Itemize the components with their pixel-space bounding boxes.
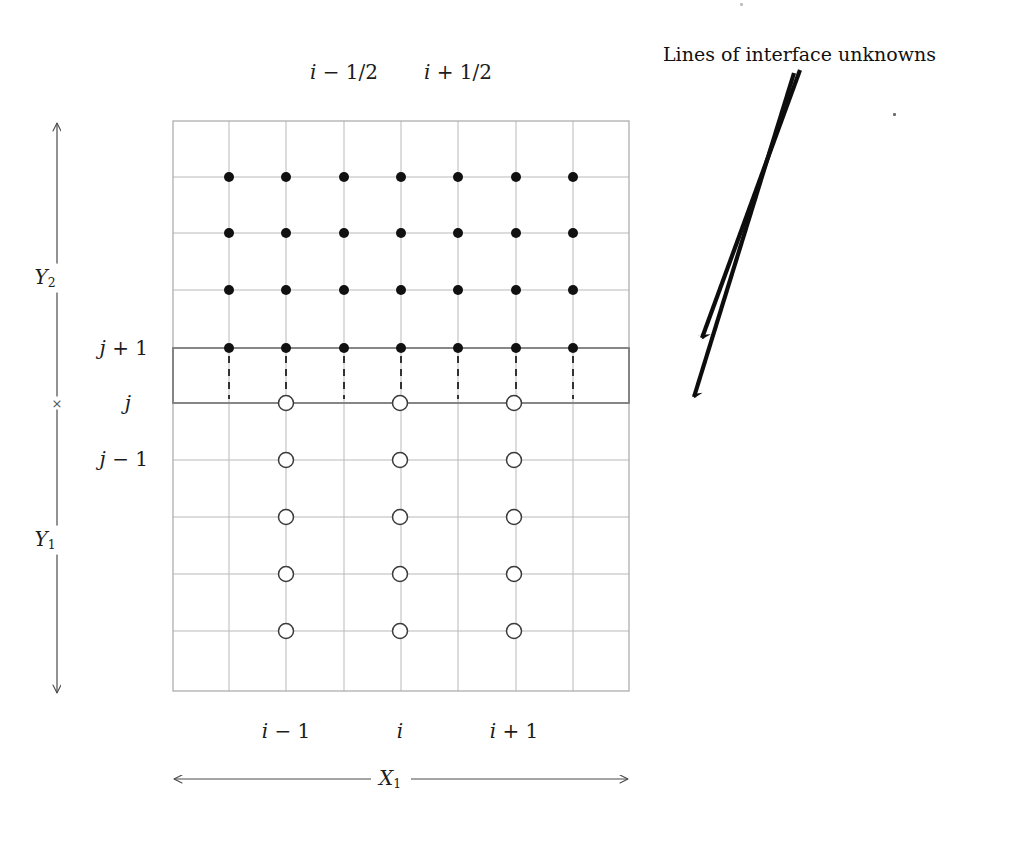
hollow-node xyxy=(507,453,522,468)
hollow-node xyxy=(279,567,294,582)
label-i-plus-half: i + 1/2 xyxy=(424,62,492,82)
label-i-minus-1: i − 1 xyxy=(262,721,311,741)
filled-node xyxy=(339,343,349,353)
filled-node xyxy=(224,343,234,353)
label-op: − xyxy=(268,719,297,743)
filled-node xyxy=(224,172,234,182)
hollow-node xyxy=(393,624,408,639)
filled-node xyxy=(396,172,406,182)
hollow-node xyxy=(279,453,294,468)
filled-node xyxy=(568,343,578,353)
filled-node xyxy=(511,343,521,353)
filled-node xyxy=(511,172,521,182)
hollow-node xyxy=(393,567,408,582)
filled-node xyxy=(511,285,521,295)
filled-node xyxy=(281,343,291,353)
label-subscript: 2 xyxy=(48,275,56,290)
filled-node xyxy=(453,285,463,295)
label-op: + xyxy=(106,336,135,360)
label-value: 1 xyxy=(526,719,539,743)
hollow-node xyxy=(393,453,408,468)
label-text: X xyxy=(379,766,393,790)
label-value: 1 xyxy=(298,719,311,743)
hollow-node xyxy=(393,510,408,525)
annotation-arrow-lower xyxy=(694,73,794,397)
label-j-minus-1: j − 1 xyxy=(100,449,148,469)
label-subscript: 1 xyxy=(48,537,56,552)
filled-node xyxy=(453,228,463,238)
filled-node xyxy=(339,285,349,295)
hollow-node xyxy=(507,567,522,582)
hollow-node xyxy=(507,624,522,639)
label-value: 1 xyxy=(135,336,148,360)
figure-canvas: Lines of interface unknowns i − 1/2 i + … xyxy=(0,0,1009,844)
label-text: Y xyxy=(34,527,47,551)
label-y1: Y1 xyxy=(29,526,60,555)
label-op: − xyxy=(106,447,135,471)
y-axis-tick-marker: × xyxy=(50,397,65,410)
filled-node xyxy=(453,172,463,182)
label-value: 1 xyxy=(135,447,148,471)
label-i: i xyxy=(397,721,403,741)
label-value: 1/2 xyxy=(460,60,492,84)
label-text: i xyxy=(397,719,403,743)
label-value: 1/2 xyxy=(346,60,378,84)
label-j: j xyxy=(125,393,131,413)
label-i-minus-half: i − 1/2 xyxy=(310,62,378,82)
label-x1: X1 xyxy=(372,766,408,793)
annotation-label: Lines of interface unknowns xyxy=(663,45,936,64)
annotation-arrow-group xyxy=(694,70,800,397)
label-op: − xyxy=(316,60,345,84)
filled-node xyxy=(339,228,349,238)
filled-node xyxy=(281,285,291,295)
hollow-node xyxy=(507,510,522,525)
hollow-node xyxy=(279,396,294,411)
label-y2: Y2 xyxy=(29,264,60,293)
hollow-node xyxy=(279,510,294,525)
hollow-node xyxy=(393,396,408,411)
hollow-node xyxy=(279,624,294,639)
filled-node xyxy=(511,228,521,238)
label-subscript: 1 xyxy=(393,776,401,791)
scan-speck xyxy=(740,3,743,6)
filled-node xyxy=(396,228,406,238)
filled-node xyxy=(568,285,578,295)
filled-node xyxy=(281,228,291,238)
filled-node xyxy=(453,343,463,353)
filled-node xyxy=(568,172,578,182)
filled-node xyxy=(396,343,406,353)
diagram-svg xyxy=(0,0,1009,844)
annotation-arrow-upper xyxy=(702,70,800,338)
label-text: Y xyxy=(34,265,47,289)
label-text: j xyxy=(125,391,131,415)
label-i-plus-1: i + 1 xyxy=(490,721,539,741)
label-j-plus-1: j + 1 xyxy=(100,338,148,358)
filled-node xyxy=(568,228,578,238)
filled-node xyxy=(224,228,234,238)
filled-node xyxy=(224,285,234,295)
filled-node xyxy=(281,172,291,182)
filled-node xyxy=(339,172,349,182)
scan-speck xyxy=(893,113,896,116)
label-op: + xyxy=(430,60,459,84)
hollow-node xyxy=(507,396,522,411)
filled-node xyxy=(396,285,406,295)
label-op: + xyxy=(496,719,525,743)
